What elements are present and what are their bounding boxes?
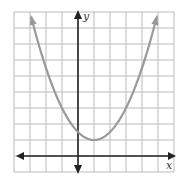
x-axis-label: x	[166, 159, 173, 172]
grid	[14, 12, 174, 172]
parabola-graph: y x	[0, 0, 181, 182]
y-axis-label: y	[82, 10, 90, 23]
